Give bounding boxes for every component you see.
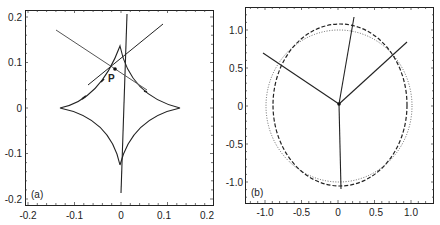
panel-b-ytick: -0.5 (226, 139, 244, 150)
panel-b-ytick: 0 (237, 101, 243, 112)
panel-a-ytick: -0.2 (5, 194, 23, 205)
caustic-curve (60, 46, 180, 165)
arrow-mark (101, 79, 104, 82)
center-point (337, 102, 341, 106)
panel-b: 1.0 0.5 0 -0.5 -1.0 -1.0 -0.5 0 0.5 1.0 … (226, 7, 434, 218)
panel-b-xtick: 0 (335, 207, 341, 218)
panel-b-xtick: 1.0 (404, 207, 418, 218)
panel-a-ytick: 0 (16, 103, 22, 114)
ray-down (339, 104, 341, 189)
panel-a-ytick: 0.1 (8, 57, 22, 68)
figure: 0.2 0.1 0 -0.1 -0.2 -0.2 -0.1 0 0.1 0.2 … (0, 0, 440, 225)
panel-a-ytick: 0.2 (8, 12, 22, 23)
panel-a-ytick: -0.1 (5, 148, 23, 159)
panel-b-ytick: -1.0 (226, 177, 244, 188)
ray-upper-right (339, 42, 407, 104)
panel-b-xtick: 0.5 (369, 207, 383, 218)
panel-b-xtick: -1.0 (256, 207, 274, 218)
panel-a-xtick: -0.2 (19, 210, 37, 221)
point-p-label: P (108, 73, 115, 84)
panel-a-xtick: -0.1 (66, 210, 84, 221)
arrow-mark (144, 91, 147, 92)
panel-b-ytick: 1.0 (229, 25, 243, 36)
point-p (113, 67, 117, 71)
panel-b-ytick: 0.5 (229, 63, 243, 74)
ray-up (339, 17, 354, 104)
panel-b-xtick: -0.5 (293, 207, 311, 218)
panel-a-frame (26, 11, 214, 206)
panel-a-xtick: 0 (118, 210, 124, 221)
panel-b-label: (b) (251, 187, 263, 198)
line-vertical (121, 14, 127, 193)
panel-a-label: (a) (31, 189, 43, 200)
panel-a-xtick: 0.1 (157, 210, 171, 221)
ray-upper-left (263, 53, 339, 104)
panel-a-ticks (25, 10, 213, 205)
panel-a-xtick: 0.2 (200, 210, 214, 221)
panel-a: 0.2 0.1 0 -0.1 -0.2 -0.2 -0.1 0 0.1 0.2 … (5, 10, 215, 221)
